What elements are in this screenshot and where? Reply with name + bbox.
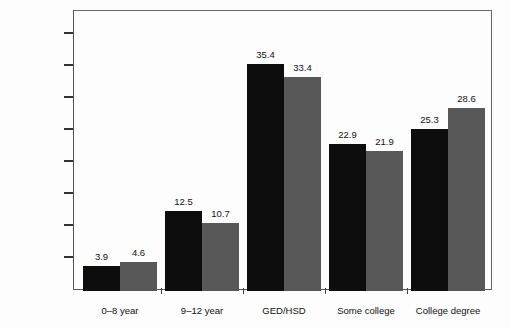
- bar-value-label: 10.7: [198, 208, 243, 219]
- bar: [165, 211, 202, 291]
- bar: [247, 64, 284, 291]
- bar: [83, 266, 120, 291]
- bar: [411, 129, 448, 291]
- bar-value-label: 35.4: [243, 49, 288, 60]
- x-axis-category-label: College degree: [389, 305, 507, 316]
- bar: [448, 108, 485, 291]
- bar: [120, 262, 157, 291]
- bar-chart-screenshot: PERCENTAGE 40353025201510050 3.94.612.51…: [0, 0, 510, 328]
- bar-value-label: 4.6: [116, 247, 161, 258]
- bar: [202, 223, 239, 291]
- bar: [366, 151, 403, 291]
- bar: [284, 77, 321, 291]
- bar-value-label: 33.4: [280, 62, 325, 73]
- bar-value-label: 21.9: [362, 136, 407, 147]
- bar-value-label: 25.3: [407, 114, 452, 125]
- bar: [329, 144, 366, 291]
- bar-value-label: 28.6: [444, 93, 489, 104]
- bar-value-label: 12.5: [161, 196, 206, 207]
